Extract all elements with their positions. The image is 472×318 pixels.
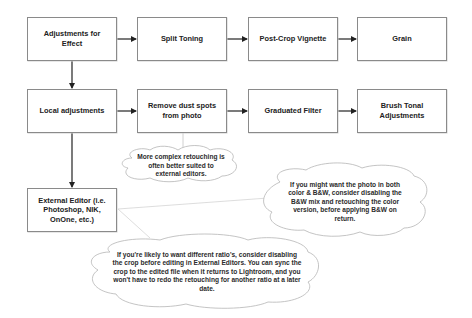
box-label: Local adjustments [40, 106, 105, 116]
box-external-editor: External Editor (i.e. Photoshop, NIK, On… [27, 188, 117, 232]
note-text: If you're likely to want different ratio… [112, 251, 302, 294]
box-label: Split Toning [161, 34, 203, 44]
box-grain: Grain [357, 17, 447, 61]
box-graduated-filter: Graduated Filter [248, 89, 338, 133]
note-crop-ratio: If you're likely to want different ratio… [112, 246, 302, 298]
box-brush-tonal-adjustments: Brush Tonal Adjustments [357, 89, 447, 133]
box-split-toning: Split Toning [137, 17, 227, 61]
box-label: Adjustments for Effect [34, 29, 110, 48]
note-text: If you might want the photo in both colo… [282, 181, 408, 224]
box-label: Remove dust spots from photo [144, 101, 220, 120]
box-label: Grain [392, 34, 411, 44]
box-label: External Editor (i.e. Photoshop, NIK, On… [34, 196, 110, 225]
box-label: Post-Crop Vignette [260, 34, 327, 44]
box-adjustments-for-effect: Adjustments for Effect [27, 17, 117, 61]
box-label: Brush Tonal Adjustments [364, 101, 440, 120]
box-remove-dust-spots: Remove dust spots from photo [137, 89, 227, 133]
box-post-crop-vignette: Post-Crop Vignette [248, 17, 338, 61]
connector-external-to-bw-note [118, 198, 268, 238]
box-label: Graduated Filter [264, 106, 321, 116]
box-local-adjustments: Local adjustments [27, 89, 117, 133]
note-color-bw: If you might want the photo in both colo… [282, 174, 408, 230]
note-text: More complex retouching is often better … [135, 153, 227, 179]
note-complex-retouching: More complex retouching is often better … [135, 152, 227, 180]
